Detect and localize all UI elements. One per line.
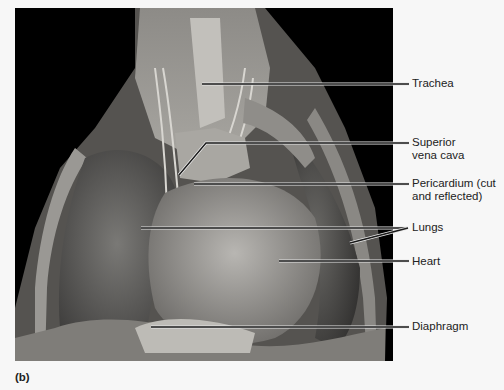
- label-lungs: Lungs: [412, 221, 443, 234]
- label-diaphragm: Diaphragm: [412, 320, 468, 333]
- panel-label: (b): [15, 371, 30, 383]
- label-pericardium: Pericardium (cut and reflected): [412, 177, 496, 203]
- label-superior-vena-cava: Superior vena cava: [412, 136, 464, 162]
- label-trachea: Trachea: [412, 77, 454, 90]
- label-heart: Heart: [412, 255, 440, 268]
- thorax-illustration: [15, 8, 393, 361]
- dissection-photo: [15, 8, 393, 361]
